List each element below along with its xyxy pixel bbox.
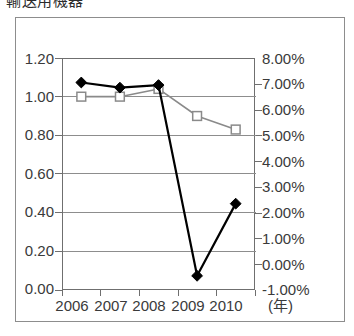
- right-axis-tick: [255, 135, 262, 136]
- right-axis-tick: [255, 187, 262, 188]
- right-axis-tick: [255, 161, 262, 162]
- right-axis-tick: [255, 238, 262, 239]
- left-axis-tick-label-0_80: 0.80: [25, 127, 54, 142]
- right-axis-tick-label-3: 3.00%: [262, 179, 305, 194]
- gridline: [63, 212, 256, 213]
- left-axis-tick: [55, 212, 62, 213]
- x-axis-tick: [255, 290, 256, 296]
- plot-area: [62, 58, 255, 290]
- right-axis-tick-label-0: 0.00%: [262, 257, 305, 272]
- chart-figure: 輸送用機器 1.20 1.00 0.80 0.60 0.40 0.20 0.00…: [0, 0, 354, 336]
- x-axis-tick: [100, 290, 101, 296]
- right-axis-tick-label-4: 4.00%: [262, 154, 305, 169]
- right-axis-tick-label-5: 5.00%: [262, 128, 305, 143]
- gridline: [63, 96, 256, 97]
- right-axis-tick-label-7: 7.00%: [262, 76, 305, 91]
- right-axis-tick: [255, 213, 262, 214]
- left-axis-tick: [55, 173, 62, 174]
- right-axis-tick-label-1: 1.00%: [262, 231, 305, 246]
- left-axis-tick: [55, 96, 62, 97]
- right-axis-tick-label-6: 6.00%: [262, 102, 305, 117]
- right-axis-tick: [255, 264, 262, 265]
- x-axis-unit-label: (年): [268, 297, 293, 314]
- left-axis-tick-label-0_00: 0.00: [25, 281, 54, 296]
- left-axis-tick: [55, 58, 62, 59]
- left-axis-tick-label-1_20: 1.20: [25, 51, 54, 66]
- gridline: [63, 173, 256, 174]
- page-title: 輸送用機器: [6, 0, 84, 9]
- right-axis-tick-label-neg1: -1.00%: [262, 282, 310, 297]
- right-axis-tick: [255, 110, 262, 111]
- right-axis-tick-label-2: 2.00%: [262, 205, 305, 220]
- left-axis-tick-label-0_60: 0.60: [25, 166, 54, 181]
- left-axis-tick-label-1_00: 1.00: [25, 89, 54, 104]
- right-axis-tick-label-8: 8.00%: [262, 51, 305, 66]
- right-axis-tick: [255, 84, 262, 85]
- x-axis-tick: [178, 290, 179, 296]
- x-axis-label-2010: 2010: [196, 297, 256, 314]
- left-axis-tick: [55, 135, 62, 136]
- left-axis-tick-label-0_40: 0.40: [25, 204, 54, 219]
- x-axis-tick: [139, 290, 140, 296]
- x-axis-tick: [62, 290, 63, 296]
- gridline: [63, 135, 256, 136]
- x-axis-tick: [216, 290, 217, 296]
- left-axis-tick: [55, 290, 62, 291]
- left-axis-tick-label-0_20: 0.20: [25, 243, 54, 258]
- left-axis-tick: [55, 251, 62, 252]
- gridline: [63, 251, 256, 252]
